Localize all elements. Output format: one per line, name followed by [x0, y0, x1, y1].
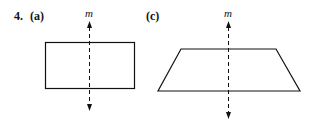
axis-line-c: [226, 21, 231, 119]
diagram-canvas: [0, 0, 316, 126]
axis-line-a: [87, 21, 92, 111]
arrow-down-icon: [87, 104, 92, 111]
arrow-up-icon: [87, 21, 92, 28]
arrow-down-icon: [226, 112, 231, 119]
arrow-up-icon: [226, 21, 231, 28]
